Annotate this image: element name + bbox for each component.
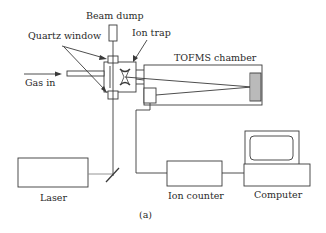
laser-label: Laser [40, 193, 67, 203]
beam-dump [109, 25, 117, 41]
computer-base [244, 164, 310, 186]
ion-trap-chamber [104, 62, 136, 92]
detector-small-box [144, 88, 156, 103]
ion-counter-label: Ion counter [168, 191, 224, 201]
tofms-chamber-label: TOFMS chamber [174, 53, 256, 63]
gas-in-label: Gas in [25, 78, 55, 88]
computer-label: Computer [254, 190, 302, 200]
ion-counter-box [167, 161, 222, 186]
signal-cable [136, 103, 167, 173]
mirror [106, 168, 119, 182]
ion-trap-label: Ion trap [132, 28, 171, 38]
gas-inlet-tube [67, 71, 104, 76]
laser-box [18, 158, 88, 187]
tofms-chamber [144, 65, 262, 105]
figure-caption: (a) [139, 210, 152, 220]
beam-dump-label: Beam dump [86, 11, 144, 21]
quartz-window-label: Quartz window [28, 31, 101, 41]
